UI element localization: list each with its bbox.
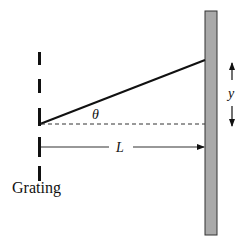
grating-diagram: θ L y Grating — [0, 0, 245, 241]
grating-slit-bar — [38, 137, 41, 157]
angle-label: θ — [92, 107, 99, 122]
grating-slit-bar — [38, 52, 41, 65]
grating-slit-bar — [38, 79, 41, 93]
grating-label: Grating — [12, 179, 61, 197]
displacement-label: y — [226, 86, 235, 101]
grating — [38, 52, 41, 181]
distance-label: L — [115, 140, 124, 155]
diffracted-ray — [40, 60, 205, 124]
screen — [205, 11, 217, 235]
